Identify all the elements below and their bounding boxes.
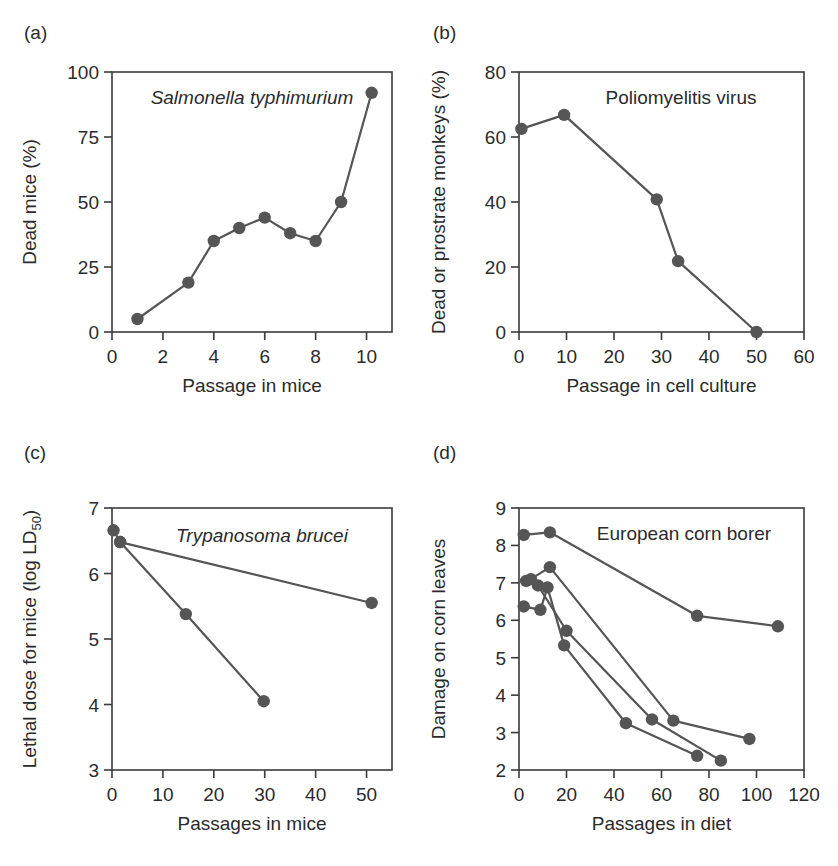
data-point [180,608,192,620]
data-point [743,733,755,745]
x-axis-title: Passage in cell culture [566,375,756,396]
panel-b: (b) 0102030405060020406080Poliomyelitis … [419,0,838,418]
data-point [518,600,530,612]
series-line [524,532,778,626]
data-point [772,620,784,632]
x-tick-label: 40 [698,346,719,367]
data-point [558,639,570,651]
y-tick-label: 8 [495,535,506,556]
data-point [691,610,703,622]
panel-a-plot: 02468100255075100Salmonella typhimuriumP… [0,0,419,418]
y-tick-label: 50 [78,192,99,213]
x-tick-label: 50 [746,346,767,367]
data-point [182,276,194,288]
x-tick-label: 120 [788,784,820,805]
y-tick-label: 20 [485,257,506,278]
x-tick-label: 0 [514,346,525,367]
data-point [365,87,377,99]
data-point [646,713,658,725]
y-tick-label: 80 [485,62,506,83]
x-tick-label: 10 [356,346,377,367]
x-tick-label: 10 [556,346,577,367]
panel-c-plot: 0102030405034567Trypanosoma bruceiPassag… [0,418,419,866]
data-point [107,524,119,536]
y-tick-label: 6 [88,564,99,585]
series-title: Trypanosoma brucei [176,525,349,546]
data-point [518,529,530,541]
y-tick-label: 60 [485,127,506,148]
x-tick-label: 0 [514,784,525,805]
panel-d: (d) 02040608010012023456789European corn… [419,418,838,866]
figure-four-panel-attenuation: (a) 02468100255075100Salmonella typhimur… [0,0,838,866]
y-tick-label: 0 [495,322,506,343]
series-line [521,115,756,332]
data-point [558,109,570,121]
panel-d-plot: 02040608010012023456789European corn bor… [419,418,838,866]
data-point [672,255,684,267]
plot-frame [112,72,392,332]
data-point [515,123,527,135]
y-tick-label: 5 [495,648,506,669]
y-axis-title: Lethal dose for mice (log LD50) [19,510,44,768]
y-axis-title: Dead mice (%) [19,139,40,265]
series-line [120,542,264,701]
y-tick-label: 100 [67,62,99,83]
plot-frame [112,508,392,770]
data-point [335,196,347,208]
x-tick-label: 20 [203,784,224,805]
y-tick-label: 6 [495,610,506,631]
x-tick-label: 8 [310,346,321,367]
y-tick-label: 7 [495,573,506,594]
x-axis-title: Passages in diet [592,813,732,834]
x-tick-label: 20 [556,784,577,805]
x-axis-title: Passage in mice [182,375,321,396]
data-point [620,717,632,729]
x-tick-label: 10 [152,784,173,805]
y-tick-label: 40 [485,192,506,213]
y-tick-label: 0 [88,322,99,343]
y-tick-label: 2 [495,760,506,781]
data-point [541,581,553,593]
series-title: Salmonella typhimurium [151,87,354,108]
data-point [520,575,532,587]
y-axis-title: Dead or prostrate monkeys (%) [428,70,449,334]
series-line [531,567,750,739]
panel-c: (c) 0102030405034567Trypanosoma bruceiPa… [0,418,419,866]
y-tick-label: 4 [88,695,99,716]
x-tick-label: 50 [356,784,377,805]
data-point [750,326,762,338]
panel-b-plot: 0102030405060020406080Poliomyelitis viru… [419,0,838,418]
y-tick-label: 5 [88,629,99,650]
data-point [544,561,556,573]
series-line [526,581,721,761]
x-tick-label: 2 [158,346,169,367]
x-tick-label: 20 [603,346,624,367]
data-point [651,193,663,205]
data-point [544,526,556,538]
x-tick-label: 6 [259,346,270,367]
y-tick-label: 4 [495,685,506,706]
data-point [691,750,703,762]
data-point [258,695,270,707]
data-point [131,313,143,325]
y-tick-label: 25 [78,257,99,278]
x-tick-label: 40 [603,784,624,805]
y-tick-label: 7 [88,498,99,519]
x-tick-label: 0 [107,346,118,367]
x-tick-label: 100 [741,784,773,805]
data-point [560,625,572,637]
data-point [114,536,126,548]
data-point [208,235,220,247]
x-tick-label: 30 [651,346,672,367]
x-tick-label: 60 [651,784,672,805]
data-point [365,597,377,609]
series-title: Poliomyelitis virus [606,87,757,108]
x-tick-label: 30 [254,784,275,805]
y-axis-title: Damage on corn leaves [428,539,449,740]
data-point [284,227,296,239]
y-tick-label: 3 [88,760,99,781]
panel-a: (a) 02468100255075100Salmonella typhimur… [0,0,419,418]
x-tick-label: 40 [305,784,326,805]
x-axis-title: Passages in mice [178,813,327,834]
data-point [259,211,271,223]
